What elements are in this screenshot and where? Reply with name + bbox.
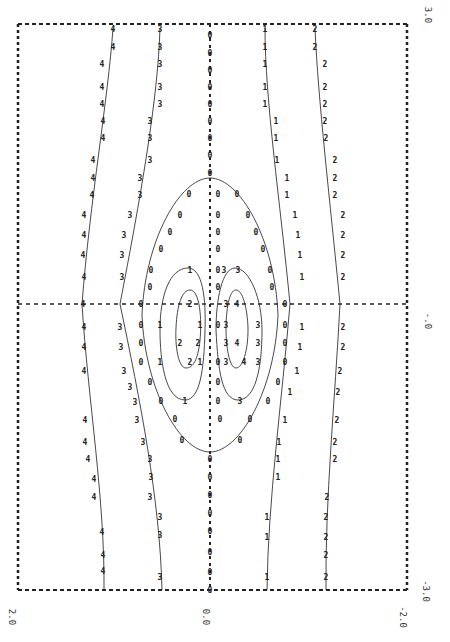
mark-1: 1 xyxy=(293,211,298,220)
mark-4: 4 xyxy=(100,83,105,92)
mark-3: 3 xyxy=(118,323,123,332)
plot-frame xyxy=(18,24,407,590)
mark-0: 0 xyxy=(254,228,259,237)
mark-3: 3 xyxy=(158,25,163,34)
mark-0: 0 xyxy=(187,190,192,199)
mark-2: 2 xyxy=(341,273,346,282)
mark-0: 0 xyxy=(208,548,213,557)
contour-3 xyxy=(120,28,162,590)
mark-1: 1 xyxy=(296,231,301,240)
mark-0: 0 xyxy=(139,358,144,367)
mark-0: 0 xyxy=(283,358,288,367)
mark-1: 1 xyxy=(263,83,268,92)
mark-0: 0 xyxy=(283,339,288,348)
mark-4: 4 xyxy=(81,300,86,309)
mark-0: 0 xyxy=(235,190,240,199)
mark-2: 2 xyxy=(323,60,328,69)
mark-4: 4 xyxy=(83,438,88,447)
mark-2: 2 xyxy=(324,134,329,143)
mark-1: 1 xyxy=(198,321,203,330)
mark-0: 0 xyxy=(139,339,144,348)
mark-3: 3 xyxy=(158,531,163,540)
mark-1: 1 xyxy=(263,43,268,52)
mark-4: 4 xyxy=(100,100,105,109)
crosshair-lines xyxy=(18,24,407,590)
x-tick-label-right: -2.0 xyxy=(398,606,408,628)
mark-4: 4 xyxy=(92,493,97,502)
mark-2: 2 xyxy=(341,231,346,240)
mark-1: 1 xyxy=(300,273,305,282)
mark-3: 3 xyxy=(128,383,133,392)
mark-1: 1 xyxy=(283,416,288,425)
mark-0: 0 xyxy=(216,358,221,367)
mark-2: 2 xyxy=(335,416,340,425)
mark-0: 0 xyxy=(216,378,221,387)
mark-3: 3 xyxy=(148,493,153,502)
mark-4: 4 xyxy=(92,475,97,484)
mark-0: 0 xyxy=(139,321,144,330)
mark-0: 0 xyxy=(208,100,213,109)
mark-0: 0 xyxy=(216,228,221,237)
mark-3: 3 xyxy=(119,343,124,352)
mark-0: 0 xyxy=(208,491,213,500)
mark-3: 3 xyxy=(122,231,127,240)
mark-1: 1 xyxy=(274,117,279,126)
mark-1: 1 xyxy=(288,388,293,397)
mark-4: 4 xyxy=(82,323,87,332)
mark-1: 1 xyxy=(158,321,163,330)
mark-2: 2 xyxy=(323,100,328,109)
mark-0: 0 xyxy=(283,300,288,309)
mark-2: 2 xyxy=(323,83,328,92)
mark-2: 2 xyxy=(338,367,343,376)
mark-0: 0 xyxy=(208,527,213,536)
mark-0: 0 xyxy=(159,245,164,254)
mark-3: 3 xyxy=(148,156,153,165)
contour-plot: 4 4 4 4 4 4 4 4 4 4 4 4 4 4 4 4 4 4 4 4 … xyxy=(0,0,450,642)
contour-curves xyxy=(82,28,340,590)
mark-3: 3 xyxy=(224,339,229,348)
mark-3: 3 xyxy=(148,455,153,464)
mark-1: 1 xyxy=(274,134,279,143)
mark-0: 0 xyxy=(216,283,221,292)
mark-3: 3 xyxy=(224,321,229,330)
mark-3: 3 xyxy=(133,398,138,407)
mark-0: 0 xyxy=(208,83,213,92)
mark-0: 0 xyxy=(148,283,153,292)
mark-2: 2 xyxy=(323,117,328,126)
mark-3: 3 xyxy=(158,573,163,582)
mark-2: 2 xyxy=(325,493,330,502)
mark-0: 0 xyxy=(178,211,183,220)
y-tick-label-bottom: -3.0 xyxy=(421,580,431,602)
mark-0: 0 xyxy=(208,509,213,518)
mark-4: 4 xyxy=(82,231,87,240)
mark-4: 4 xyxy=(111,25,116,34)
mark-4: 4 xyxy=(82,343,87,352)
mark-2: 2 xyxy=(188,300,193,309)
mark-0: 0 xyxy=(208,169,213,178)
mark-4: 4 xyxy=(82,211,87,220)
mark-4: 4 xyxy=(90,191,95,200)
mark-0: 0 xyxy=(208,473,213,482)
mark-2: 2 xyxy=(324,573,329,582)
mark-0: 0 xyxy=(216,397,221,406)
mark-4: 4 xyxy=(100,528,105,537)
mark-3: 3 xyxy=(158,83,163,92)
mark-0: 0 xyxy=(139,300,144,309)
mark-2: 2 xyxy=(333,191,338,200)
mark-4: 4 xyxy=(101,551,106,560)
mark-0: 0 xyxy=(159,397,164,406)
mark-4: 4 xyxy=(82,273,87,282)
mark-3: 3 xyxy=(149,473,154,482)
mark-3: 3 xyxy=(138,191,143,200)
mark-0: 0 xyxy=(208,586,213,595)
mark-4: 4 xyxy=(100,60,105,69)
mark-1: 1 xyxy=(275,156,280,165)
mark-3: 3 xyxy=(148,117,153,126)
mark-1: 1 xyxy=(198,358,203,367)
mark-4: 4 xyxy=(101,134,106,143)
contour-2 xyxy=(315,28,340,590)
mark-0: 0 xyxy=(238,436,243,445)
mark-2: 2 xyxy=(313,43,318,52)
mark-3: 3 xyxy=(238,397,243,406)
mark-4: 4 xyxy=(83,416,88,425)
